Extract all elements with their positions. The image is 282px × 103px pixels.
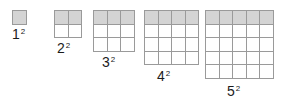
grid-cell [69,25,83,39]
label-base: 5 [227,83,235,99]
grid-cell [121,38,135,52]
grid-cell [145,52,159,66]
square-label-4: 42 [157,69,170,83]
label-base: 4 [157,68,165,84]
label-exponent: 2 [236,84,240,93]
label-exponent: 2 [111,55,115,64]
square-label-2: 22 [57,41,70,55]
grid-cell [172,25,186,39]
grid-cell-shaded [186,11,200,25]
grid-cell [233,65,247,79]
square-grid-3 [93,10,135,52]
label-exponent: 2 [166,69,170,78]
grid-cell [172,52,186,66]
grid-cell [247,52,261,66]
label-base: 3 [102,54,110,70]
grid-cell-shaded [247,11,261,25]
grid-cell-shaded [220,11,234,25]
grid-cell [220,65,234,79]
label-base: 1 [12,26,20,42]
grid-cell [186,52,200,66]
grid-cell [145,38,159,52]
label-exponent: 2 [21,27,25,36]
figure-canvas: 1222324252 [0,0,282,103]
grid-cell-shaded [233,11,247,25]
grid-cell-shaded [206,11,220,25]
grid-cell-shaded [13,11,27,25]
grid-cell [94,25,108,39]
grid-cell [233,38,247,52]
grid-cell-shaded [94,11,108,25]
grid-cell [94,38,108,52]
square-label-5: 52 [227,84,240,98]
grid-cell [220,25,234,39]
grid-cell [186,38,200,52]
grid-cell-shaded [145,11,159,25]
grid-cell [260,25,274,39]
grid-cell [172,38,186,52]
grid-cell [159,25,173,39]
grid-cell [145,25,159,39]
grid-cell-shaded [159,11,173,25]
grid-cell [247,25,261,39]
grid-cell-shaded [260,11,274,25]
grid-cell [247,65,261,79]
label-base: 2 [57,40,65,56]
grid-cell-shaded [55,11,69,25]
grid-cell [206,25,220,39]
square-grid-5 [205,10,274,79]
grid-cell [206,65,220,79]
grid-cell-shaded [69,11,83,25]
grid-cell [55,25,69,39]
square-label-3: 32 [102,55,115,69]
grid-cell [220,52,234,66]
grid-cell [206,38,220,52]
grid-cell [260,52,274,66]
grid-cell-shaded [121,11,135,25]
grid-cell [260,65,274,79]
grid-cell [233,25,247,39]
grid-cell [233,52,247,66]
square-label-1: 12 [12,27,25,41]
square-grid-4 [144,10,199,65]
grid-cell [206,52,220,66]
grid-cell [220,38,234,52]
grid-cell [108,25,122,39]
label-exponent: 2 [66,41,70,50]
grid-cell-shaded [108,11,122,25]
grid-cell [108,38,122,52]
square-grid-2 [54,10,82,38]
grid-cell [260,38,274,52]
grid-cell [159,52,173,66]
square-grid-1 [12,10,27,25]
grid-cell [159,38,173,52]
grid-cell [247,38,261,52]
grid-cell [186,25,200,39]
grid-cell-shaded [172,11,186,25]
grid-cell [121,25,135,39]
